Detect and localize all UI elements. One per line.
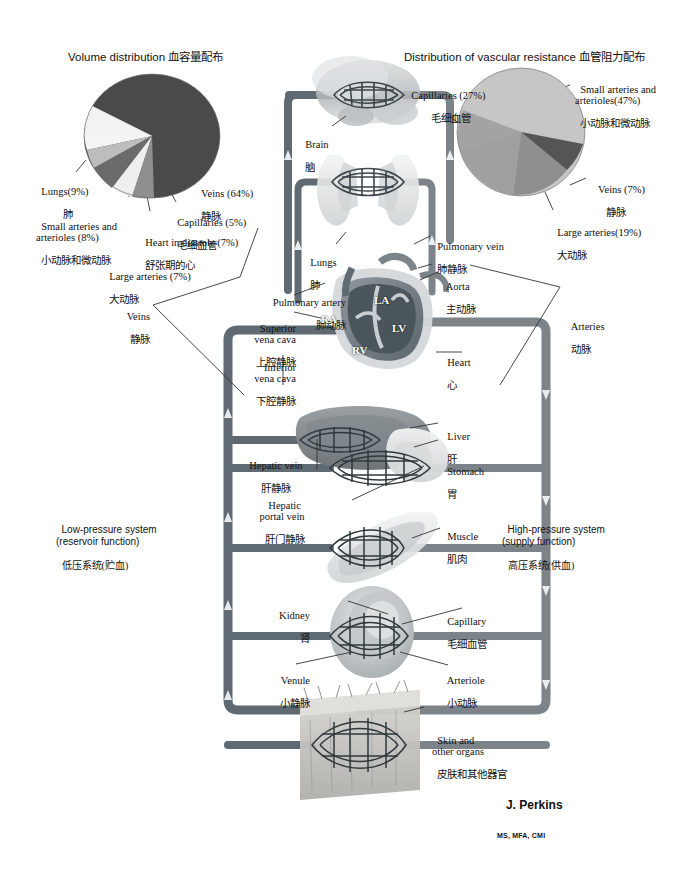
organ-heart: [332, 256, 446, 369]
label-hepatic-portal-vein: Hepatic portal vein 肝门静脉: [244, 488, 320, 546]
heart-chamber-rv: RV: [352, 344, 368, 356]
label-capillary: Capillary 毛细血管: [442, 604, 487, 650]
heart-chamber-lv: LV: [392, 322, 406, 334]
heart-chamber-la: LA: [374, 294, 389, 306]
label-arteries: Arteries 动脉: [566, 309, 605, 355]
label-stomach: Stomach 胃: [442, 454, 484, 500]
label-skin-other-organs: Skin and other organs 皮肤和其他器官: [432, 723, 507, 781]
label-brain: Brain 脑: [300, 127, 329, 173]
heart-chamber-ra: RA: [321, 313, 337, 325]
label-venule: Venule 小静脉: [228, 663, 310, 709]
label-muscle: Muscle 肌肉: [442, 519, 478, 565]
volume-label-lungs: Lungs(9%) 肺: [36, 174, 89, 220]
resistance-chart-title: Distribution of vascular resistance 血管阻力…: [404, 48, 645, 64]
organ-brain: [312, 56, 420, 126]
label-arteriole: Arteriole 小动脉: [442, 663, 485, 709]
resistance-label-veins: Veins (7%) 静脉: [593, 172, 645, 218]
resistance-label-capillaries: Capillaries (27%) 毛细血管: [406, 78, 486, 124]
organ-muscle: [327, 512, 437, 583]
resistance-label-large-arteries: Large arteries(19%) 大动脉: [552, 215, 641, 261]
label-inferior-vena-cava: Inferior vena cava 下腔静脉: [196, 350, 296, 408]
resistance-label-small-arteries: Small arteries and arterioles(47%) 小动脉和微…: [575, 72, 656, 130]
label-high-pressure-system: High-pressure system (supply function) 高…: [502, 512, 605, 572]
artist-credit: J. Perkins MS, MFA, CMI: [497, 777, 563, 857]
label-heart: Heart 心: [442, 345, 471, 391]
organ-stomach: [386, 428, 449, 482]
label-veins: Veins 静脉: [78, 299, 150, 345]
label-aorta: Aorta 主动脉: [441, 269, 476, 315]
label-kidney: Kidney 肾: [230, 598, 310, 644]
label-low-pressure-system: Low-pressure system (reservoir function)…: [56, 512, 157, 572]
organ-lungs: [317, 155, 419, 226]
volume-chart-title: Volume distribution 血容量配布: [68, 48, 223, 64]
